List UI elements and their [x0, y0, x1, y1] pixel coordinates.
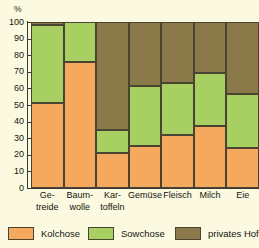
bar-segment-sowchose[interactable]: [96, 130, 129, 153]
x-axis-labels: Ge- treideBaum- wolleKar- toffelnGemüseF…: [31, 190, 259, 218]
legend-label: Kolchose: [41, 228, 80, 239]
y-axis-tick-label-text: 30: [14, 134, 24, 143]
y-axis-tick-label: 0: [0, 184, 24, 193]
bar-segment-kolchose[interactable]: [31, 103, 64, 188]
legend-label: privates Hofl: [208, 228, 259, 239]
y-axis-tick-label: 100: [0, 18, 24, 27]
bar-segment-kolchose[interactable]: [96, 153, 129, 188]
y-axis-tick-label: 70: [0, 67, 24, 76]
bar-segment-sowchose[interactable]: [194, 73, 227, 125]
bar-segment-kolchose[interactable]: [194, 126, 227, 188]
bar-segment-privat[interactable]: [96, 22, 129, 130]
legend-swatch-kolchose: [8, 227, 34, 240]
bar-segment-privat[interactable]: [161, 22, 194, 83]
y-axis-tick-label: 20: [0, 150, 24, 159]
bar-column[interactable]: [226, 22, 259, 188]
bar-column[interactable]: [96, 22, 129, 188]
y-axis-tick-label-text: 100: [9, 18, 24, 27]
y-axis-tick-label: 80: [0, 51, 24, 60]
x-axis-line: [27, 188, 259, 189]
y-axis-tick-label-text: 60: [14, 84, 24, 93]
y-axis-tick-label-text: 80: [14, 51, 24, 60]
y-axis-tick: [27, 188, 31, 189]
y-axis-tick-label-text: 0: [19, 184, 24, 193]
bar-segment-privat[interactable]: [226, 22, 259, 94]
bar-segment-privat[interactable]: [129, 22, 162, 86]
y-axis-tick-label-text: 10: [14, 167, 24, 176]
bar-column[interactable]: [129, 22, 162, 188]
bar-column[interactable]: [64, 22, 97, 188]
bar-column[interactable]: [31, 22, 64, 188]
plot-area: [31, 22, 259, 188]
legend-item[interactable]: Kolchose: [8, 224, 80, 242]
y-axis-tick-label: 10: [0, 167, 24, 176]
y-axis-tick-label: 40: [0, 117, 24, 126]
bar-segment-kolchose[interactable]: [161, 135, 194, 188]
y-axis-tick-label: 30: [0, 134, 24, 143]
y-axis-tick-label: 60: [0, 84, 24, 93]
bar-segment-sowchose[interactable]: [64, 22, 97, 62]
legend-label: Sowchose: [121, 228, 165, 239]
legend-swatch-privat: [175, 227, 201, 240]
y-axis-unit-label: %: [14, 4, 22, 14]
bar-segment-privat[interactable]: [194, 22, 227, 73]
legend-swatch-sowchose: [88, 227, 114, 240]
x-axis-label: Eie: [220, 190, 259, 202]
bar-segment-sowchose[interactable]: [129, 86, 162, 146]
stacked-bar-chart: % 0102030405060708090100 Ge- treideBaum-…: [0, 0, 259, 248]
y-axis-tick-label: 50: [0, 101, 24, 110]
bar-column[interactable]: [194, 22, 227, 188]
y-axis-tick-label-text: 70: [14, 67, 24, 76]
y-axis-tick-label: 90: [0, 34, 24, 43]
y-axis-tick-label-text: 90: [14, 34, 24, 43]
bar-segment-sowchose[interactable]: [31, 25, 64, 103]
bar-column[interactable]: [161, 22, 194, 188]
bar-segment-sowchose[interactable]: [226, 94, 259, 148]
legend-item[interactable]: Sowchose: [88, 224, 165, 242]
y-axis-tick-label-text: 50: [14, 101, 24, 110]
y-axis-tick-label-text: 20: [14, 150, 24, 159]
bar-segment-kolchose[interactable]: [226, 148, 259, 188]
bar-segment-privat[interactable]: [31, 22, 64, 25]
bar-segment-kolchose[interactable]: [64, 62, 97, 188]
bar-segment-sowchose[interactable]: [161, 83, 194, 134]
bar-segment-kolchose[interactable]: [129, 146, 162, 188]
chart-legend: KolchoseSowchoseprivates Hofl: [0, 224, 259, 248]
legend-item[interactable]: privates Hofl: [175, 224, 259, 242]
y-axis-tick-label-text: 40: [14, 117, 24, 126]
